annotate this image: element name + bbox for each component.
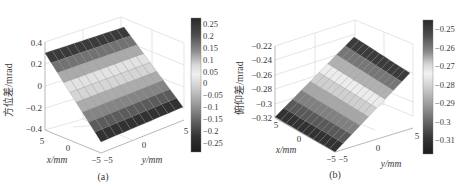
- x-tick: 0: [297, 134, 302, 144]
- x-tick: −5: [91, 155, 101, 165]
- y-tick: 0: [142, 140, 147, 150]
- x-tick: 5: [40, 136, 45, 146]
- y-tick: −5: [338, 154, 348, 164]
- surface-a: [45, 27, 183, 142]
- z-tick: 0.4: [31, 38, 43, 48]
- colorbar-tick: 0: [203, 78, 207, 88]
- y-axis-label-b: y/mm: [380, 159, 402, 169]
- z-tick: −0.22: [251, 41, 272, 51]
- z-tick: −0.3: [256, 99, 273, 109]
- z-axis-label-a: 方位差/mrad: [2, 63, 14, 116]
- z-tick: −0.28: [251, 84, 272, 94]
- surface-plot-a: 0.4 0.2 0 −0.2 −0.4 方位差/mrad 5 0 −5 x/mm…: [0, 0, 235, 188]
- z-axis-label-b: 俯仰差/mrad: [233, 61, 245, 114]
- y-axis-label-a: y/mm: [141, 155, 163, 165]
- colorbar-tick: −0.29: [435, 98, 455, 108]
- panel-b: −0.22 −0.24 −0.26 −0.28 −0.3 −0.32 俯仰差/m…: [235, 0, 470, 188]
- colorbar-tick: −0.28: [435, 80, 455, 90]
- colorbar-tick: −0.15: [203, 114, 223, 124]
- colorbar-ticks-a: 0.25 0.2 0.15 0.1 0.05 0 −0.05 −0.1 −0.1…: [203, 19, 223, 148]
- colorbar-tick: −0.26: [435, 43, 455, 53]
- x-axis-label-a: x/mm: [46, 155, 68, 165]
- x-tick: 5: [274, 120, 279, 130]
- z-tick: 0.2: [31, 59, 42, 69]
- colorbar-tick: −0.1: [203, 102, 218, 112]
- colorbar-a: [191, 18, 201, 152]
- z-ticks-a: 0.4 0.2 0 −0.2 −0.4: [26, 38, 43, 134]
- z-tick: −0.4: [26, 124, 43, 134]
- colorbar-tick: −0.27: [435, 61, 455, 71]
- colorbar-ticks-b: −0.25 −0.26 −0.27 −0.28 −0.29 −0.3 −0.31: [435, 24, 455, 145]
- panel-a: 0.4 0.2 0 −0.2 −0.4 方位差/mrad 5 0 −5 x/mm…: [0, 0, 235, 188]
- z-tick: −0.2: [26, 103, 42, 113]
- z-tick: −0.24: [251, 55, 272, 65]
- y-tick: 0: [376, 143, 381, 153]
- colorbar-tick: −0.3: [435, 117, 450, 127]
- colorbar-tick: 0.05: [203, 67, 218, 77]
- surface-b: [275, 37, 410, 152]
- colorbar-tick: 0.2: [203, 31, 214, 41]
- colorbar-tick: −0.05: [203, 90, 223, 100]
- y-tick: 5: [184, 126, 189, 136]
- z-ticks-b: −0.22 −0.24 −0.26 −0.28 −0.3 −0.32: [251, 41, 272, 123]
- caption-b: (b): [329, 169, 341, 181]
- caption-a: (a): [97, 171, 108, 183]
- colorbar-b: [423, 20, 433, 154]
- colorbar-tick: −0.31: [435, 135, 455, 145]
- z-tick: −0.26: [251, 70, 272, 80]
- colorbar-tick: −0.2: [203, 126, 218, 136]
- colorbar-tick: −0.25: [435, 24, 455, 34]
- y-tick: 5: [415, 131, 420, 141]
- surface-plot-b: −0.22 −0.24 −0.26 −0.28 −0.3 −0.32 俯仰差/m…: [235, 0, 470, 188]
- y-tick: −5: [103, 155, 113, 165]
- z-tick: 0: [38, 81, 43, 91]
- x-tick: −5: [326, 154, 336, 164]
- colorbar-tick: 0.25: [203, 19, 218, 29]
- colorbar-tick: 0.1: [203, 55, 214, 65]
- x-axis-label-b: x/mm: [275, 145, 297, 155]
- colorbar-tick: −0.25: [203, 138, 223, 148]
- colorbar-tick: 0.15: [203, 43, 218, 53]
- x-tick: 0: [66, 143, 71, 153]
- z-tick: −0.32: [251, 113, 272, 123]
